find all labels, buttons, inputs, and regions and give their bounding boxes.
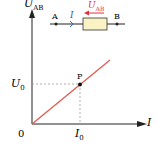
voltage-label: UAB — [88, 0, 104, 12]
point-p-label: P — [77, 72, 82, 81]
u0-label: U0 — [11, 77, 25, 92]
point-p — [78, 83, 82, 87]
characteristic-line — [32, 60, 110, 124]
origin-label: 0 — [18, 128, 24, 139]
x-axis-arrow-icon — [137, 121, 147, 127]
resistor — [83, 18, 107, 30]
node-b-label: B — [114, 12, 120, 21]
node-a-label: A — [52, 12, 58, 21]
x-axis-label: I — [147, 116, 151, 129]
node-b-dot — [116, 23, 119, 26]
y-axis-label: UAB — [24, 0, 43, 12]
current-label: I — [70, 10, 74, 20]
i0-label: I0 — [75, 127, 84, 142]
node-a-dot — [55, 23, 58, 26]
